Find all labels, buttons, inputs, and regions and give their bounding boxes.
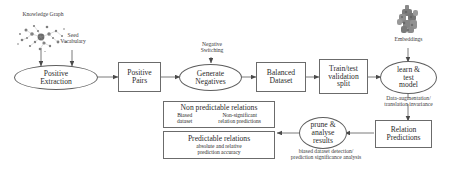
positive-extraction-line2: Extraction <box>40 78 72 86</box>
relation-predictions-line2: Predictions <box>386 134 420 142</box>
node-relation-predictions: Relation Predictions <box>375 120 432 148</box>
node-non-predictable-relations: Non predictable relations Biased dataset… <box>163 101 275 128</box>
biased-dataset-line2: dataset <box>177 119 192 125</box>
predictable-sub-line2: prediction accuracy <box>197 150 240 156</box>
node-prune-analyse-results: prune & analyse results <box>299 117 347 149</box>
node-generate-negatives: Generate Negatives <box>179 64 242 91</box>
negative-switching-label: Negative Switching <box>190 41 234 54</box>
balanced-dataset-line2: Dataset <box>270 77 293 85</box>
prune-analyse-line3: results <box>313 137 333 145</box>
non-predictable-title: Non predictable relations <box>181 104 258 112</box>
train-test-line3: split <box>337 80 350 88</box>
embeddings-label: Embeddings <box>382 36 435 42</box>
non-predictable-subcolumns: Biased dataset Non-significant relation … <box>164 113 274 125</box>
data-augmentation-line2: translation invariance <box>366 101 451 107</box>
data-augmentation-label: Data-augmentation/ translation invarianc… <box>366 95 451 108</box>
positive-pairs-line2: Pairs <box>132 77 147 85</box>
knowledge-graph-label: Knowledge Graph <box>6 11 80 17</box>
seed-vocabulary-label: Seed Vocabulary <box>52 32 94 45</box>
predictable-title: Predictable relations <box>188 135 250 143</box>
node-positive-extraction: Positive Extraction <box>14 65 98 90</box>
node-learn-test-model: learn & test model <box>380 61 437 94</box>
pipeline-diagram: Knowledge Graph Seed Vocabulary Positive… <box>0 0 455 174</box>
node-positive-pairs: Positive Pairs <box>118 62 161 92</box>
biased-detection-line2: prediction significance analysis <box>281 154 371 160</box>
non-predictable-non-significant: Non-significant relation predictions <box>218 113 261 125</box>
node-train-test-split: Train/test validation split <box>319 59 368 94</box>
learn-test-line3: model <box>399 81 418 89</box>
node-predictable-relations: Predictable relations absolute and relat… <box>163 131 275 159</box>
embeddings-image <box>392 3 425 36</box>
negative-switching-line2: Switching <box>190 47 234 53</box>
generate-negatives-line2: Negatives <box>195 78 225 86</box>
biased-detection-label: biased dataset detection/ prediction sig… <box>281 148 371 161</box>
non-predictable-biased-dataset: Biased dataset <box>177 113 192 125</box>
non-significant-line2: relation predictions <box>218 119 261 125</box>
node-balanced-dataset: Balanced Dataset <box>256 62 306 92</box>
seed-vocabulary-line2: Vocabulary <box>52 38 94 44</box>
